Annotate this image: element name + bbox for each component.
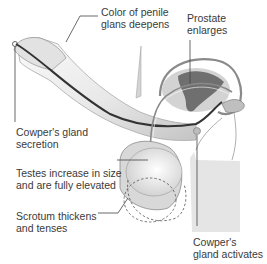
label-prostate: Prostate enlarges (187, 12, 227, 36)
seminal-vesicle (222, 100, 244, 113)
arousal-anatomy-diagram: Color of penile glans deepens Prostate e… (0, 0, 267, 264)
label-glans: Color of penile glans deepens (101, 6, 169, 30)
label-scrotum: Scrotum thickens and tenses (16, 210, 97, 234)
leader-glans (66, 16, 98, 42)
pubic-hair (136, 46, 141, 98)
leader-scrotum (98, 198, 128, 213)
label-testes: Testes increase in size and are fully el… (16, 167, 122, 191)
rear-outline (232, 112, 236, 160)
penile-glans (14, 38, 66, 71)
cowpers-gland (194, 128, 201, 135)
label-cowpers-activates: Cowper's gland activates (193, 236, 263, 260)
testis (126, 148, 182, 196)
label-cowpers-secretion: Cowper's gland secretion (16, 126, 88, 150)
body-region (190, 152, 240, 232)
